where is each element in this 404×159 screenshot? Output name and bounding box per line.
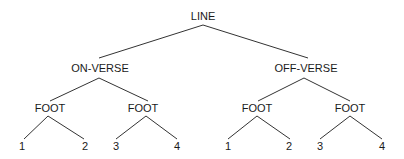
node-leaf: 4 [379,141,385,152]
node-leaf: 2 [82,141,88,152]
tree-edges [0,0,404,159]
node-leaf: 1 [225,141,231,152]
node-leaf: 4 [174,141,180,152]
node-on-verse: ON-VERSE [71,63,128,74]
node-on-foot-1: FOOT [35,103,66,114]
edge-offverse-foot1 [258,78,304,101]
edge-onfoot1-leaf1 [24,116,48,139]
edge-offfoot2-leaf3 [320,116,350,139]
edge-onfoot2-leaf4 [146,116,177,139]
node-off-foot-2: FOOT [335,103,366,114]
edge-line-onverse [99,25,203,58]
tree-diagram: LINE ON-VERSE OFF-VERSE FOOT FOOT FOOT F… [0,0,404,159]
edge-onfoot2-leaf3 [116,116,146,139]
edge-onverse-foot2 [99,78,148,101]
edge-offfoot2-leaf4 [350,116,382,139]
edge-offfoot1-leaf1 [228,116,257,139]
node-line: LINE [191,11,215,22]
edge-offverse-foot2 [304,78,350,101]
node-leaf: 2 [286,141,292,152]
edge-onverse-foot1 [50,78,99,101]
node-on-foot-2: FOOT [128,103,159,114]
node-leaf: 1 [19,141,25,152]
node-off-verse: OFF-VERSE [275,63,338,74]
node-leaf: 3 [317,141,323,152]
edge-onfoot1-leaf2 [48,116,84,139]
node-off-foot-1: FOOT [242,103,273,114]
node-leaf: 3 [113,141,119,152]
edge-offfoot1-leaf2 [257,116,290,139]
edge-line-offverse [203,25,308,58]
